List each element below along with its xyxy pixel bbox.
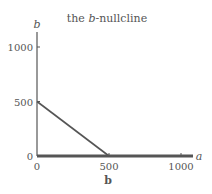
x-tick-label: 1000	[168, 161, 193, 172]
y-tick-label: 0	[27, 151, 33, 162]
ticks: 0500100005001000	[8, 42, 194, 172]
x-tick-label: 0	[34, 161, 40, 172]
axes	[37, 32, 193, 156]
x-axis-label: a	[196, 150, 203, 163]
chart-title: the b-nullcline	[67, 12, 147, 25]
y-axis-label: b	[33, 18, 40, 31]
y-tick-label: 1000	[8, 42, 33, 53]
series-nullcline-diagonal	[37, 102, 109, 157]
figure-caption: b	[104, 174, 112, 187]
x-tick-label: 500	[99, 161, 118, 172]
y-tick-label: 500	[14, 97, 33, 108]
series	[37, 102, 193, 157]
chart: the b-nullcline b a b 0500100005001000	[0, 0, 212, 194]
